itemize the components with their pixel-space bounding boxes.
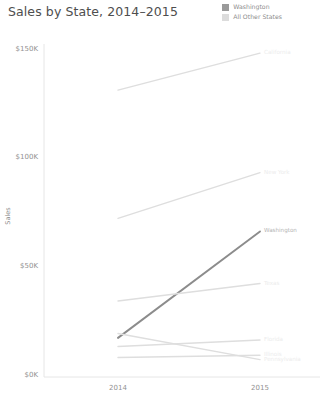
series-label-washington: Washington	[264, 228, 297, 234]
series-line-washington[interactable]	[118, 231, 260, 337]
series-line-new-york[interactable]	[118, 173, 260, 219]
series-label-new-york: New York	[264, 170, 290, 176]
series-lines	[118, 53, 260, 359]
series-line-florida[interactable]	[118, 340, 260, 347]
series-label-texas: Texas	[264, 281, 279, 287]
series-label-california: California	[264, 50, 291, 56]
series-label-florida: Florida	[264, 337, 283, 343]
chart-container: Sales by State, 2014–2015 Washington All…	[0, 0, 326, 399]
series-line-texas[interactable]	[118, 284, 260, 301]
series-line-california[interactable]	[118, 53, 260, 90]
series-label-illinois: Illinois	[264, 352, 282, 358]
